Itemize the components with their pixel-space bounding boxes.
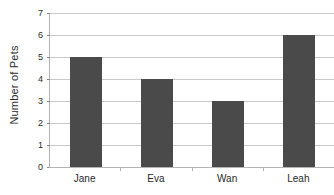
- y-axis-tick-labels: 01234567: [28, 0, 46, 195]
- y-tick-mark: [47, 35, 50, 36]
- y-axis-tick-label: 3: [38, 97, 43, 106]
- y-tick-mark: [47, 101, 50, 102]
- bar-chart: Number of Pets 01234567 JaneEvaWanLeah: [0, 0, 334, 195]
- y-tick-mark: [47, 123, 50, 124]
- y-axis-tick-label: 1: [38, 141, 43, 150]
- y-axis-tick-label: 0: [38, 163, 43, 172]
- x-axis-category-label: Jane: [74, 174, 96, 184]
- y-axis-title: Number of Pets: [0, 0, 28, 170]
- bar-jane: [70, 57, 102, 167]
- y-tick-mark: [47, 57, 50, 58]
- bar-leah: [283, 35, 315, 167]
- x-tick-mark: [263, 168, 264, 171]
- y-tick-mark: [47, 79, 50, 80]
- bar-wan: [212, 101, 244, 167]
- y-axis-tick-label: 7: [38, 9, 43, 18]
- y-axis-title-text: Number of Pets: [8, 45, 20, 124]
- gridline: [50, 13, 334, 14]
- x-axis-category-label: Leah: [287, 174, 309, 184]
- y-axis-tick-label: 4: [38, 75, 43, 84]
- x-axis-category-label: Eva: [147, 174, 164, 184]
- plot-area: [49, 13, 334, 167]
- x-tick-mark: [192, 168, 193, 171]
- y-axis-tick-label: 6: [38, 31, 43, 40]
- y-tick-mark: [47, 13, 50, 14]
- x-tick-mark: [120, 168, 121, 171]
- y-axis-tick-label: 2: [38, 119, 43, 128]
- y-axis-tick-label: 5: [38, 53, 43, 62]
- x-axis-category-label: Wan: [217, 174, 237, 184]
- bar-eva: [141, 79, 173, 167]
- y-tick-mark: [47, 145, 50, 146]
